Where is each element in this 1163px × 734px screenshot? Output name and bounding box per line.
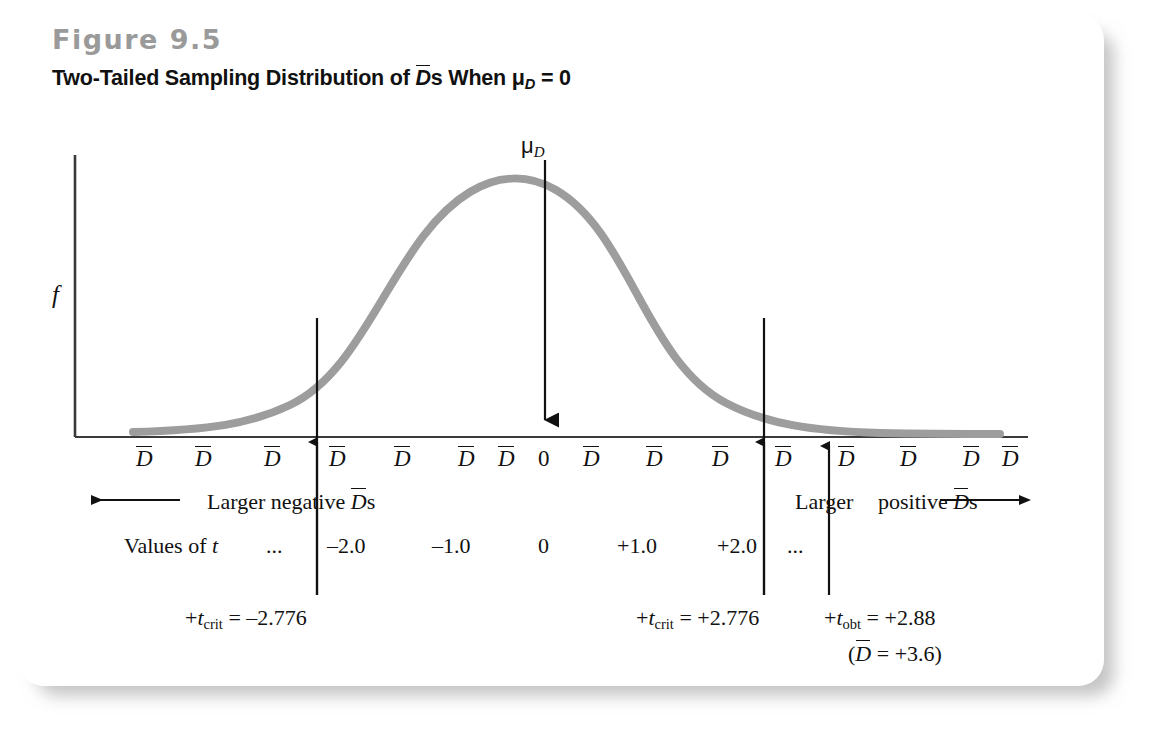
dbar-glyph: D	[195, 446, 212, 472]
dbar-tick-label: D	[775, 446, 792, 472]
dbar-glyph: D	[646, 446, 663, 472]
title-lead: Two-Tailed Sampling Distribution of	[52, 66, 415, 90]
title-mid: s When	[431, 66, 512, 90]
t-tick-label: +1.0	[617, 533, 657, 559]
crit-value: = +2.776	[674, 605, 759, 630]
obt-subscript: obt	[843, 616, 862, 632]
dbar-glyph: D	[953, 489, 969, 515]
plus-sign: +	[185, 605, 197, 630]
larger-positive-label-b: positive Ds	[878, 489, 978, 515]
crit-subscript: crit	[655, 616, 674, 632]
larger-positive-text: positive	[878, 489, 953, 514]
dbar-obtained-annotation: (D = +3.6)	[848, 641, 942, 667]
t-ellipsis-right: ...	[787, 533, 804, 559]
dbar-glyph: D	[498, 446, 515, 472]
dbar-glyph: D	[351, 489, 367, 515]
t-tick-label: 0	[538, 533, 549, 559]
dbar-glyph: D	[458, 446, 475, 472]
dbar-tick-label: D	[195, 446, 212, 472]
dbar-glyph: D	[963, 446, 980, 472]
t-crit-upper-annotation: +tcrit = +2.776	[636, 605, 759, 633]
dbar-tick-label: D	[900, 446, 917, 472]
dbar-tick-label: D	[646, 446, 663, 472]
mu-subscript: D	[534, 144, 545, 160]
larger-positive-label-a: Larger	[795, 489, 853, 515]
plus-sign: +	[636, 605, 648, 630]
dbar-tick-label: D	[329, 446, 346, 472]
plural-s: s	[969, 489, 978, 514]
t-crit-lower-annotation: +tcrit = –2.776	[185, 605, 307, 633]
t-tick-label: –1.0	[432, 533, 471, 559]
dbar-tick-label: D	[136, 446, 153, 472]
plus-sign: +	[824, 605, 836, 630]
mu-symbol: μ	[521, 133, 534, 158]
t-obt-annotation: +tobt = +2.88	[824, 605, 935, 633]
dbar-value: = +3.6)	[871, 641, 942, 666]
dbar-glyph: D	[712, 446, 729, 472]
crit-subscript: crit	[204, 616, 223, 632]
dbar-glyph: D	[394, 446, 411, 472]
mu-d-label: μD	[521, 133, 545, 161]
dbar-tick-label: D	[712, 446, 729, 472]
dbar-tick-label: D	[963, 446, 980, 472]
figure-title: Two-Tailed Sampling Distribution of Ds W…	[52, 66, 571, 92]
dbar-tick-label: D	[1002, 446, 1019, 472]
figure-card	[18, 14, 1104, 686]
dbar-glyph: D	[583, 446, 600, 472]
plural-s: s	[367, 489, 376, 514]
dbar-glyph: D	[329, 446, 346, 472]
dbar-glyph: D	[264, 446, 281, 472]
zero-tick-label: 0	[538, 446, 550, 472]
figure-page: Figure 9.5 Two-Tailed Sampling Distribut…	[0, 0, 1163, 734]
values-of-t-text: Values of	[124, 533, 212, 558]
dbar-tick-label: D	[394, 446, 411, 472]
dbar-tick-label: D	[498, 446, 515, 472]
t-tick-label: +2.0	[717, 533, 757, 559]
title-mu: μ	[512, 66, 525, 90]
dbar-glyph: D	[1002, 446, 1019, 472]
dbar-glyph: D	[900, 446, 917, 472]
dbar-tick-label: D	[583, 446, 600, 472]
larger-negative-label: Larger negative Ds	[207, 489, 375, 515]
values-of-t-label: Values of t	[124, 533, 218, 559]
t-tick-label: –2.0	[327, 533, 366, 559]
dbar-glyph: D	[775, 446, 792, 472]
figure-number: Figure 9.5	[52, 24, 222, 55]
larger-negative-text: Larger negative	[207, 489, 351, 514]
title-tail: = 0	[535, 66, 571, 90]
dbar-glyph: D	[838, 446, 855, 472]
y-axis-label: f	[52, 281, 59, 309]
dbar-glyph: D	[136, 446, 153, 472]
dbar-tick-label: D	[458, 446, 475, 472]
t-symbol: t	[212, 533, 218, 558]
crit-value: = –2.776	[223, 605, 307, 630]
obt-value: = +2.88	[861, 605, 935, 630]
t-ellipsis-left: ...	[266, 533, 283, 559]
title-mu-subscript: D	[525, 76, 535, 92]
dbar-tick-label: D	[264, 446, 281, 472]
dbar-glyph: D	[855, 641, 871, 667]
dbar-tick-label: D	[838, 446, 855, 472]
title-dbar-icon: D	[415, 66, 430, 91]
